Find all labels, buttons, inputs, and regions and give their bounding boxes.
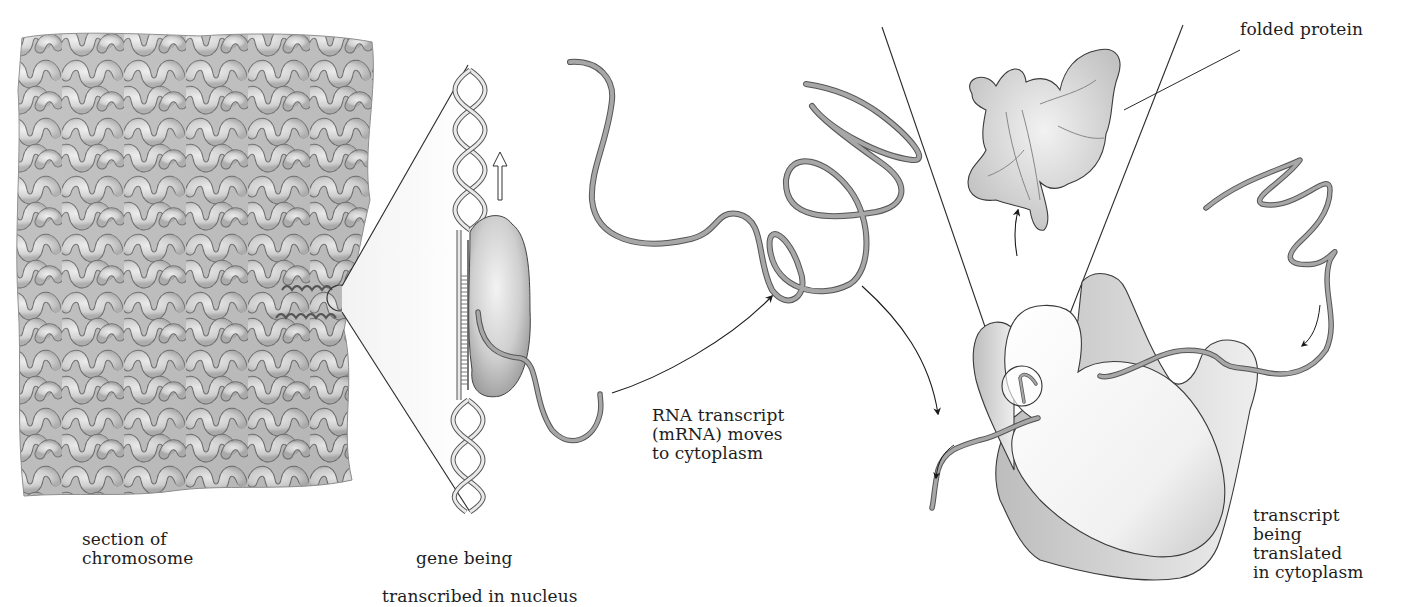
gene-expression-diagram: section of chromosome gene being transcr… — [0, 0, 1402, 607]
label-gene-line-2: transcribed in nucleus — [382, 586, 578, 606]
mrna-move-arrow — [612, 296, 772, 393]
folded-protein-leader — [1124, 50, 1240, 110]
label-section-of-chromosome: section of chromosome — [82, 530, 193, 568]
folded-protein — [968, 49, 1120, 256]
entry-direction-arrow — [1302, 305, 1320, 346]
to-cytoplasm-arrow — [862, 286, 938, 414]
section-of-chromosome — [17, 33, 374, 496]
rna-polymerase — [469, 216, 531, 397]
folding-arrow — [1015, 210, 1018, 256]
label-rna-transcript: RNA transcript (mRNA) moves to cytoplasm — [652, 406, 784, 463]
transcription-direction-arrow — [493, 152, 507, 200]
label-transcript-being-translated: transcript being translated in cytoplasm — [1253, 506, 1363, 582]
mrna-strand[interactable] — [570, 62, 919, 301]
diagram-canvas — [0, 0, 1402, 607]
label-gene-line-1: gene being — [382, 549, 578, 568]
label-gene-being-transcribed: gene being transcribed in nucleus — [382, 530, 578, 606]
label-folded-protein: folded protein — [1240, 20, 1363, 39]
